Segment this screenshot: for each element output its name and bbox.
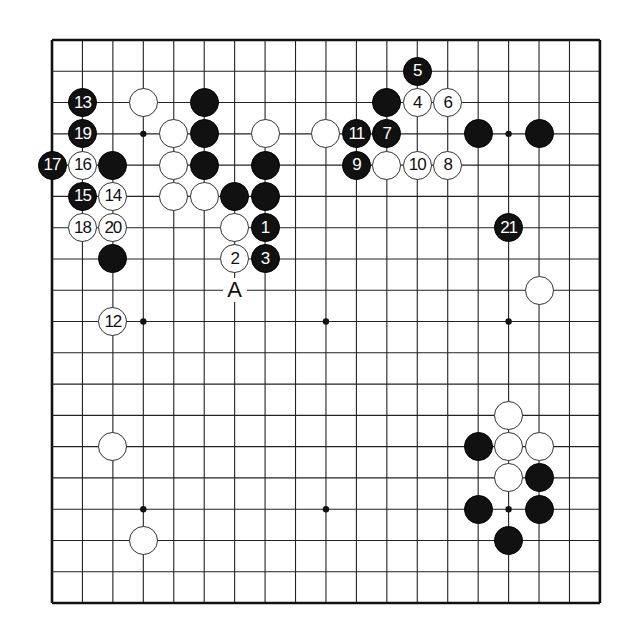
move-number: 21: [500, 218, 517, 238]
move-number: 20: [104, 218, 121, 238]
black-stone: [464, 495, 493, 524]
white-stone: [251, 119, 280, 148]
move-number: 14: [104, 186, 121, 206]
star-point: [505, 131, 511, 137]
white-stone: 10: [403, 151, 432, 180]
move-number: 7: [383, 124, 391, 144]
white-stone: [159, 151, 188, 180]
white-stone: [494, 401, 523, 430]
black-stone: [464, 119, 493, 148]
move-number: 19: [74, 124, 91, 144]
move-number: 11: [349, 124, 365, 144]
black-stone: 13: [68, 88, 97, 117]
move-number: 15: [74, 186, 91, 206]
move-number: 4: [413, 93, 421, 113]
move-number: 13: [74, 93, 91, 113]
move-number: 12: [104, 312, 121, 332]
move-number: 3: [261, 249, 269, 269]
black-stone: [464, 432, 493, 461]
move-number: 9: [352, 155, 360, 175]
black-stone: [251, 151, 280, 180]
black-stone: [525, 495, 554, 524]
black-stone: [190, 119, 219, 148]
white-stone: [494, 432, 523, 461]
white-stone: [372, 151, 401, 180]
point-label: A: [223, 278, 247, 302]
move-number: 6: [443, 93, 451, 113]
move-number: 8: [443, 155, 451, 175]
move-number: 1: [261, 218, 269, 238]
black-stone: 5: [403, 57, 432, 86]
star-point: [140, 318, 146, 324]
black-stone: [98, 151, 127, 180]
black-stone: 15: [68, 182, 97, 211]
black-stone: 9: [342, 151, 371, 180]
white-stone: 4: [403, 88, 432, 117]
move-number: 5: [413, 61, 421, 81]
black-stone: [190, 151, 219, 180]
black-stone: 17: [38, 151, 67, 180]
move-number: 18: [74, 218, 91, 238]
black-stone: 11: [342, 119, 371, 148]
black-stone: [525, 119, 554, 148]
move-number: 17: [44, 155, 61, 175]
star-point: [323, 318, 329, 324]
move-number: 10: [409, 155, 426, 175]
black-stone: [251, 182, 280, 211]
go-board: 513461911717169108151418201212312 A: [0, 0, 634, 635]
move-number: 2: [230, 249, 238, 269]
black-stone: 1: [251, 213, 280, 242]
star-point: [505, 506, 511, 512]
white-stone: 16: [68, 151, 97, 180]
star-point: [323, 506, 329, 512]
white-stone: 8: [433, 151, 462, 180]
white-stone: 18: [68, 213, 97, 242]
white-stone: [190, 182, 219, 211]
white-stone: [159, 182, 188, 211]
white-stone: [129, 526, 158, 555]
black-stone: 3: [251, 244, 280, 273]
black-stone: [190, 88, 219, 117]
black-stone: [494, 526, 523, 555]
star-point: [505, 318, 511, 324]
white-stone: [525, 276, 554, 305]
move-number: 16: [74, 155, 91, 175]
white-stone: [129, 88, 158, 117]
black-stone: [220, 182, 249, 211]
star-point: [140, 131, 146, 137]
white-stone: [525, 432, 554, 461]
black-stone: [525, 463, 554, 492]
star-point: [140, 506, 146, 512]
